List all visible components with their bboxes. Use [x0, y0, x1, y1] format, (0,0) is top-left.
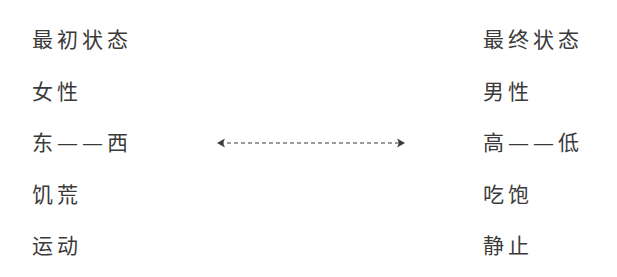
final-state-header: 最终状态 [483, 26, 583, 54]
final-state-item: 静止 [483, 232, 533, 260]
final-state-item: 高——低 [483, 129, 583, 157]
initial-state-item: 饥荒 [32, 181, 82, 209]
final-state-item: 吃饱 [483, 181, 533, 209]
double-arrow-icon [216, 136, 406, 150]
final-state-item: 男性 [483, 78, 533, 106]
initial-state-item: 女性 [32, 78, 82, 106]
initial-state-item: 运动 [32, 232, 82, 260]
initial-state-item: 东——西 [32, 129, 132, 157]
initial-state-header: 最初状态 [32, 26, 132, 54]
